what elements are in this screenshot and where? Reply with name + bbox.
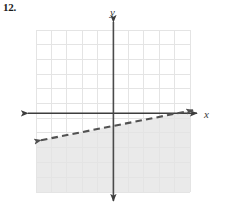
y-axis-label: y xyxy=(109,6,115,18)
figure-page: 12. xyxy=(0,0,225,204)
x-axis-label: x xyxy=(203,108,209,120)
coordinate-graph: x y xyxy=(0,0,225,204)
